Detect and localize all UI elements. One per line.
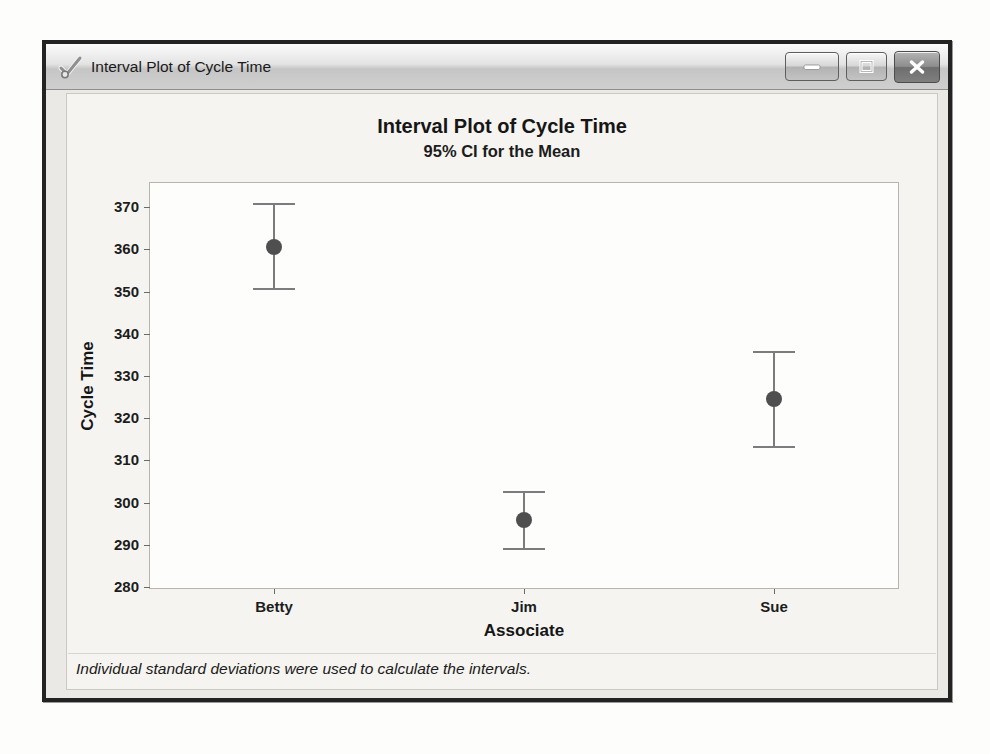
chart-subtitle: 95% CI for the Mean [67, 142, 937, 161]
ci-lower-cap[interactable] [253, 288, 295, 290]
ci-upper-cap[interactable] [253, 203, 295, 205]
window-controls [785, 51, 942, 83]
y-axis-tick-label: 330 [67, 366, 139, 386]
y-axis-tick-mark [144, 249, 150, 250]
y-axis-tick-label: 370 [67, 197, 139, 217]
minitab-graph-check-icon [58, 55, 84, 79]
close-button[interactable] [894, 51, 940, 83]
ci-lower-cap[interactable] [503, 548, 545, 550]
window-title: Interval Plot of Cycle Time [91, 58, 271, 76]
maximize-icon [859, 60, 874, 73]
ci-lower-cap[interactable] [753, 446, 795, 448]
y-axis-tick-label: 350 [67, 282, 139, 302]
y-axis-tick-label: 310 [67, 450, 139, 470]
graph-window: Interval Plot of Cycle Time Inte [42, 40, 952, 702]
maximize-button[interactable] [846, 52, 887, 81]
y-axis-tick-mark [144, 334, 150, 335]
y-axis-tick-mark [144, 292, 150, 293]
y-axis-tick-label: 340 [67, 324, 139, 344]
close-icon [909, 60, 925, 74]
y-axis-tick-label: 290 [67, 535, 139, 555]
mean-point-marker[interactable] [516, 512, 532, 528]
y-axis-tick-mark [144, 376, 150, 377]
mean-point-marker[interactable] [266, 239, 282, 255]
footnote-divider [68, 653, 936, 654]
x-axis-tick-mark [524, 589, 525, 594]
y-axis-tick-label: 280 [67, 577, 139, 597]
chart-title: Interval Plot of Cycle Time [67, 115, 937, 138]
y-axis-tick-mark [144, 587, 150, 588]
x-axis-title: Associate [149, 621, 899, 641]
x-axis-tick-label: Betty [214, 598, 334, 615]
x-axis-tick-label: Sue [714, 598, 834, 615]
ci-upper-cap[interactable] [503, 491, 545, 493]
minimize-button[interactable] [785, 52, 839, 81]
x-axis-tick-mark [274, 589, 275, 594]
y-axis-tick-label: 300 [67, 493, 139, 513]
y-axis-tick-label: 360 [67, 239, 139, 259]
footnote: Individual standard deviations were used… [76, 660, 531, 678]
y-axis-tick-mark [144, 460, 150, 461]
x-axis-tick-label: Jim [464, 598, 584, 615]
y-axis-tick-mark [144, 545, 150, 546]
ci-upper-cap[interactable] [753, 351, 795, 353]
graph-region: Interval Plot of Cycle Time 95% CI for t… [66, 93, 938, 690]
y-axis-tick-label: 320 [67, 408, 139, 428]
y-axis-tick-mark [144, 207, 150, 208]
title-bar[interactable]: Interval Plot of Cycle Time [46, 44, 948, 90]
minimize-icon [803, 63, 821, 71]
y-axis-tick-mark [144, 418, 150, 419]
x-axis-tick-mark [774, 589, 775, 594]
window-content: Interval Plot of Cycle Time 95% CI for t… [46, 90, 948, 697]
y-axis-tick-mark [144, 503, 150, 504]
